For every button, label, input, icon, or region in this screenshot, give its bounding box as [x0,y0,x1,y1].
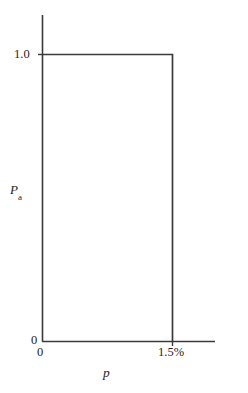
y-tick-label-1-0: 1.0 [14,48,30,61]
x-tick-label-1-5-percent: 1.5% [158,346,184,359]
oc-curve-figure: 1.0 0 0 1.5% Pa p [0,0,248,393]
y-axis-title-subscript: a [18,192,22,202]
x-axis-title: p [103,366,110,380]
y-axis-title: Pa [10,183,22,200]
y-axis-title-main: P [10,182,18,197]
x-tick-label-0: 0 [37,346,43,359]
oc-curve-series [43,55,173,342]
